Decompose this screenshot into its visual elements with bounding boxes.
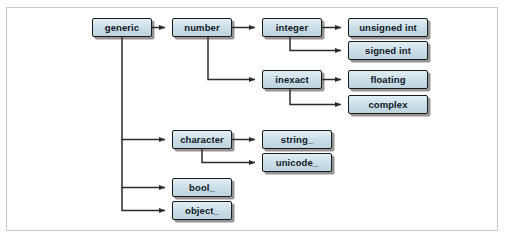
node-floating[interactable]: floating [348,70,428,89]
edge-generic-bool [122,140,165,188]
edge-generic-character [122,37,165,140]
node-label: signed int [365,45,411,55]
node-integer[interactable]: integer [262,18,322,37]
node-label: number [184,22,219,32]
node-label: bool_ [189,182,215,192]
node-label: object_ [185,205,219,215]
node-signed-int[interactable]: signed int [348,41,428,60]
node-label: floating [370,74,405,84]
node-unsigned-int[interactable]: unsigned int [348,18,428,37]
node-object[interactable]: object_ [172,201,232,220]
node-label: complex [368,99,407,109]
node-unicode[interactable]: unicode_ [262,153,332,172]
node-label: inexact [275,74,308,84]
edge-number-inexact [208,37,255,80]
edge-generic-object [122,188,165,211]
node-string[interactable]: string_ [262,130,332,149]
node-label: unicode_ [276,157,319,167]
type-hierarchy-diagram: generic number integer unsigned int sign… [0,0,507,240]
connector-lines [0,0,507,240]
node-bool[interactable]: bool_ [172,178,232,197]
node-generic[interactable]: generic [92,18,152,37]
edge-character-unicode [202,149,255,163]
node-number[interactable]: number [172,18,232,37]
node-label: integer [276,22,308,32]
node-inexact[interactable]: inexact [262,70,322,89]
node-label: string_ [281,134,313,144]
node-character[interactable]: character [172,130,232,149]
node-label: unsigned int [359,22,417,32]
edge-inexact-complex [290,89,341,105]
node-label: generic [105,22,140,32]
node-complex[interactable]: complex [348,95,428,114]
edge-integer-signed [290,37,341,51]
node-label: character [180,134,224,144]
